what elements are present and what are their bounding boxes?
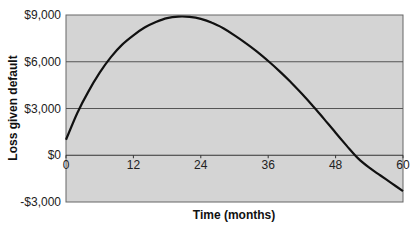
x-tick-label: 0 [63, 158, 70, 172]
y-tick-label: $3,000 [24, 102, 61, 116]
x-tick-label: 48 [329, 158, 343, 172]
y-tick-label: $0 [48, 148, 62, 162]
y-axis-ticks: -$3,000$0$3,000$6,000$9,000 [20, 8, 61, 209]
loss-given-default-chart: 01224364860 -$3,000$0$3,000$6,000$9,000 … [0, 0, 415, 227]
x-tick-label: 60 [396, 158, 410, 172]
x-axis-title: Time (months) [193, 208, 275, 222]
y-tick-label: -$3,000 [20, 195, 61, 209]
x-tick-label: 36 [262, 158, 276, 172]
y-axis-title: Loss given default [6, 55, 20, 160]
y-tick-label: $6,000 [24, 55, 61, 69]
x-tick-label: 24 [194, 158, 208, 172]
y-tick-label: $9,000 [24, 8, 61, 22]
x-tick-label: 12 [127, 158, 141, 172]
